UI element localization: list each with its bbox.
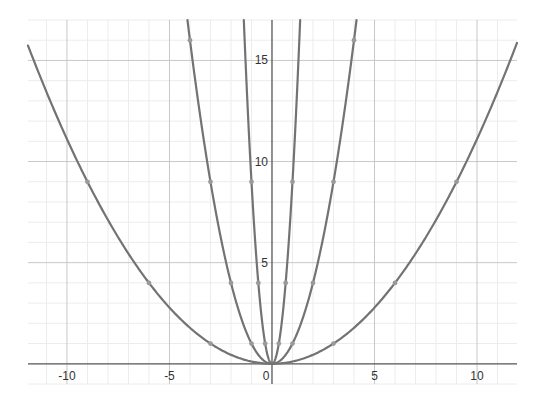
x-tick-label: 10 xyxy=(470,369,484,383)
data-point xyxy=(263,341,268,346)
y-tick-label: 5 xyxy=(261,256,268,270)
data-point xyxy=(331,341,336,346)
data-point xyxy=(208,341,213,346)
data-point xyxy=(283,280,288,285)
data-point xyxy=(188,38,193,43)
data-point xyxy=(256,280,261,285)
data-point xyxy=(249,179,254,184)
data-point xyxy=(352,38,357,43)
y-tick-label: 15 xyxy=(255,53,269,67)
y-tick-label: 10 xyxy=(255,155,269,169)
data-point xyxy=(147,280,152,285)
data-point xyxy=(311,280,316,285)
data-point xyxy=(249,341,254,346)
x-tick-label: -10 xyxy=(58,369,76,383)
tick-labels: -10-5051051015 xyxy=(58,53,484,382)
data-point xyxy=(276,341,281,346)
data-point xyxy=(208,179,213,184)
parabola-graph: -10-5051051015 xyxy=(0,0,541,402)
data-point xyxy=(290,179,295,184)
data-point xyxy=(85,179,90,184)
data-point xyxy=(229,280,234,285)
x-tick-label: -5 xyxy=(164,369,175,383)
data-point xyxy=(393,280,398,285)
data-point xyxy=(454,179,459,184)
data-point xyxy=(290,341,295,346)
x-tick-label: 5 xyxy=(371,369,378,383)
data-point xyxy=(331,179,336,184)
x-tick-label: 0 xyxy=(263,369,270,383)
